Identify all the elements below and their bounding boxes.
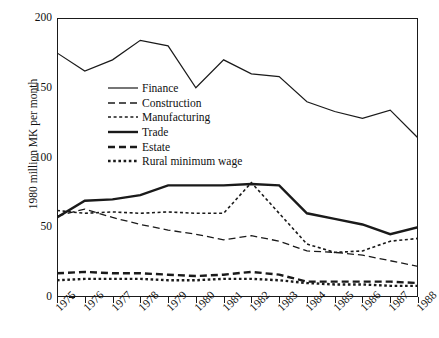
y-tick-label: 50: [22, 221, 52, 233]
legend-item-rural-minimum-wage: Rural minimum wage: [108, 154, 242, 169]
y-tick-label: 200: [22, 12, 52, 24]
y-axis-ticks: 050100150200: [18, 18, 52, 297]
legend-line-swatch: [108, 126, 138, 138]
legend-item-construction: Construction: [108, 96, 242, 111]
series-line-construction: [57, 209, 418, 266]
legend-line-swatch: [108, 82, 138, 94]
legend-line-swatch: [108, 155, 138, 167]
series-line-estate: [57, 272, 418, 283]
legend-label: Estate: [142, 141, 170, 153]
legend-line-swatch: [108, 97, 138, 109]
legend-item-finance: Finance: [108, 81, 242, 96]
legend-label: Construction: [142, 97, 201, 109]
series-line-trade: [57, 184, 418, 234]
y-tick-label: 150: [22, 82, 52, 94]
legend-label: Finance: [142, 82, 178, 94]
legend-label: Trade: [142, 126, 168, 138]
legend-label: Rural minimum wage: [142, 155, 242, 167]
y-tick-label: 100: [22, 152, 52, 164]
y-tick-label: 0: [22, 291, 52, 303]
chart-legend: FinanceConstructionManufacturingTradeEst…: [108, 81, 242, 169]
legend-item-trade: Trade: [108, 125, 242, 140]
legend-item-manufacturing: Manufacturing: [108, 110, 242, 125]
legend-line-swatch: [108, 141, 138, 153]
legend-line-swatch: [108, 111, 138, 123]
legend-label: Manufacturing: [142, 111, 210, 123]
legend-item-estate: Estate: [108, 139, 242, 154]
